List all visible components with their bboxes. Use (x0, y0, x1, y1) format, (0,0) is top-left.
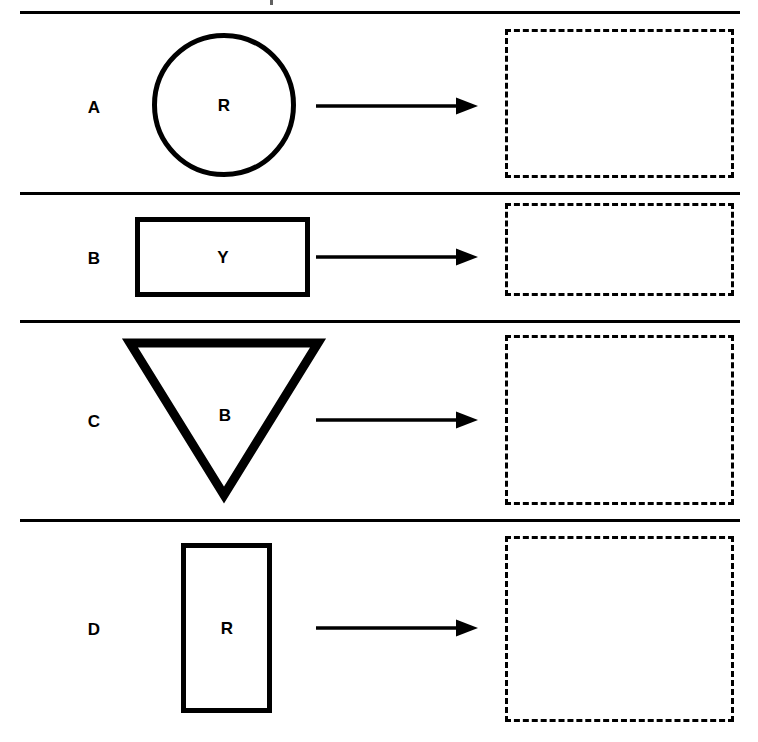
worksheet-row-c: C B (0, 320, 758, 519)
maps-to-arrow-d (316, 617, 480, 639)
row-b-shape: Y (135, 217, 310, 297)
row-d-shape-letter: R (212, 620, 242, 637)
row-a-shape-letter: R (209, 97, 239, 114)
worksheet-row-a: A R (0, 11, 758, 192)
row-c-shape: B (124, 337, 324, 501)
maps-to-arrow-a (316, 95, 480, 117)
row-a-shape: R (152, 33, 296, 177)
row-b-shape-letter: Y (208, 249, 238, 266)
answer-box-a[interactable] (505, 29, 734, 178)
row-label-c: C (81, 413, 107, 430)
row-d-shape: R (181, 543, 272, 713)
maps-to-arrow-c (316, 409, 480, 431)
answer-box-b[interactable] (505, 203, 734, 296)
scan-artifact-mark (270, 0, 273, 5)
row-label-d: D (81, 621, 107, 638)
worksheet-row-b: B Y (0, 192, 758, 320)
worksheet-row-d: D R (0, 519, 758, 742)
answer-box-d[interactable] (505, 536, 734, 722)
maps-to-arrow-b (316, 246, 480, 268)
worksheet-canvas: A R B Y C B (0, 0, 758, 742)
answer-box-c[interactable] (505, 335, 734, 505)
row-label-b: B (81, 250, 107, 267)
row-c-shape-letter: B (210, 407, 240, 424)
row-label-a: A (81, 99, 107, 116)
